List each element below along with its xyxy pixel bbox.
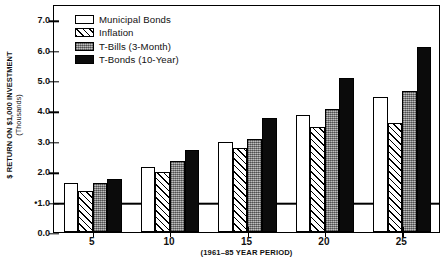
legend-item[interactable]: Inflation xyxy=(75,27,179,38)
y-tick-label: 4.0 xyxy=(20,106,50,116)
bar-group xyxy=(296,6,354,232)
x-tick-label-15: 15 xyxy=(241,236,252,247)
bar-t-bonds-10-year-20[interactable] xyxy=(339,78,354,232)
bar-municipal-bonds-5[interactable] xyxy=(64,183,79,232)
y-axis-tick-labels: 7.06.05.04.03.02.0•1.00.0 xyxy=(14,0,50,263)
y-tick-mark xyxy=(49,203,59,204)
legend-item-label: Municipal Bonds xyxy=(99,14,171,25)
bar-t-bonds-10-year-25[interactable] xyxy=(417,47,432,232)
y-tick-label: 5.0 xyxy=(20,76,50,86)
bar-chart-figure: $ RETURN ON $1,000 INVESTMENT (Thousands… xyxy=(0,0,447,263)
swatch-open-icon xyxy=(75,15,94,24)
legend-item-label: T-Bills (3-Month) xyxy=(99,41,171,52)
bar-municipal-bonds-15[interactable] xyxy=(218,142,233,232)
bar-inflation-15[interactable] xyxy=(233,148,248,232)
y-tick-mark xyxy=(49,142,59,143)
y-tick-mark xyxy=(49,20,59,21)
bar-t-bills-3-month-5[interactable] xyxy=(93,183,108,232)
bar-inflation-5[interactable] xyxy=(78,191,93,232)
x-tick-label-20: 20 xyxy=(318,236,329,247)
y-tick-label: 3.0 xyxy=(20,137,50,147)
bar-t-bills-3-month-25[interactable] xyxy=(402,91,417,232)
x-tick-label-10: 10 xyxy=(164,236,175,247)
bar-t-bonds-10-year-5[interactable] xyxy=(107,179,122,232)
y-tick-mark xyxy=(49,81,59,82)
x-tick-label-25: 25 xyxy=(396,236,407,247)
y-tick-mark xyxy=(49,112,59,113)
chart-legend: Municipal BondsInflationT-Bills (3-Month… xyxy=(75,14,179,65)
x-axis-label: (1961–85 YEAR PERIOD) xyxy=(53,248,440,257)
bar-inflation-10[interactable] xyxy=(155,172,170,232)
legend-item[interactable]: T-Bills (3-Month) xyxy=(75,41,179,52)
y-tick-label: 0.0 xyxy=(20,228,50,238)
bar-municipal-bonds-10[interactable] xyxy=(141,167,156,232)
legend-item-label: T-Bonds (10-Year) xyxy=(99,54,179,65)
bar-t-bonds-10-year-10[interactable] xyxy=(185,150,200,232)
legend-item-label: Inflation xyxy=(99,27,134,38)
bar-inflation-25[interactable] xyxy=(388,123,403,232)
bar-group xyxy=(373,6,431,232)
swatch-solid-icon xyxy=(75,55,94,64)
bar-group xyxy=(218,6,276,232)
bar-municipal-bonds-20[interactable] xyxy=(296,115,311,232)
y-tick-mark xyxy=(49,172,59,173)
y-tick-label: 7.0 xyxy=(20,15,50,25)
swatch-stipple-icon xyxy=(75,42,94,51)
bar-municipal-bonds-25[interactable] xyxy=(373,97,388,232)
bar-t-bills-3-month-10[interactable] xyxy=(170,161,185,232)
y-tick-label: 6.0 xyxy=(20,46,50,56)
y-tick-mark xyxy=(49,233,59,234)
swatch-hatch-icon xyxy=(75,28,94,37)
bar-t-bills-3-month-20[interactable] xyxy=(325,109,340,232)
x-tick-label-5: 5 xyxy=(89,236,95,247)
bar-t-bills-3-month-15[interactable] xyxy=(247,139,262,232)
y-tick-label: •1.0 xyxy=(20,198,50,208)
y-axis-label-main: $ RETURN ON $1,000 INVESTMENT xyxy=(5,51,15,178)
legend-item[interactable]: Municipal Bonds xyxy=(75,14,179,25)
bar-t-bonds-10-year-15[interactable] xyxy=(262,118,277,232)
bar-inflation-20[interactable] xyxy=(310,127,325,232)
y-tick-label: 2.0 xyxy=(20,167,50,177)
legend-item[interactable]: T-Bonds (10-Year) xyxy=(75,54,179,65)
y-tick-mark xyxy=(49,51,59,52)
